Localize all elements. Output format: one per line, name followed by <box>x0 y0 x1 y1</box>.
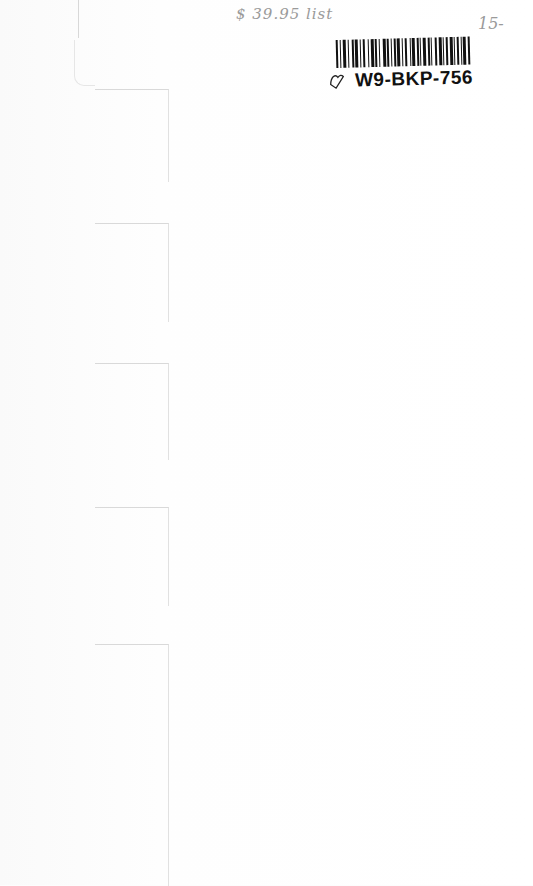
heart-outline-icon <box>328 72 346 90</box>
tab-divider-2 <box>95 223 169 322</box>
barcode-sticker: W9-BKP-756 <box>324 38 504 96</box>
tab-divider-4 <box>95 507 169 606</box>
tab-divider-3 <box>95 363 169 460</box>
sticker-code: W9-BKP-756 <box>355 66 474 91</box>
tab-divider-5 <box>95 644 169 886</box>
tab-divider-1 <box>95 89 169 182</box>
handwritten-list-price: $ 39.95 list <box>236 5 333 23</box>
page-edge-curve <box>74 40 95 86</box>
barcode <box>336 36 493 68</box>
handwritten-sale-price: 15- <box>478 14 504 33</box>
spine-line <box>78 0 79 38</box>
